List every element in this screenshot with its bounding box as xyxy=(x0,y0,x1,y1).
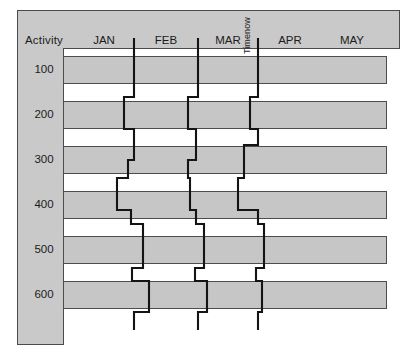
activity-bar-200 xyxy=(63,101,387,129)
activity-bar-400 xyxy=(63,191,387,219)
activity-bar-100 xyxy=(63,56,387,84)
gantt-chart-figure: Activity JAN FEB MAR APR MAY 100 200 300… xyxy=(0,0,417,354)
activity-bar-300 xyxy=(63,146,387,174)
activity-bar-600 xyxy=(63,281,387,309)
activity-bar-500 xyxy=(63,236,387,264)
